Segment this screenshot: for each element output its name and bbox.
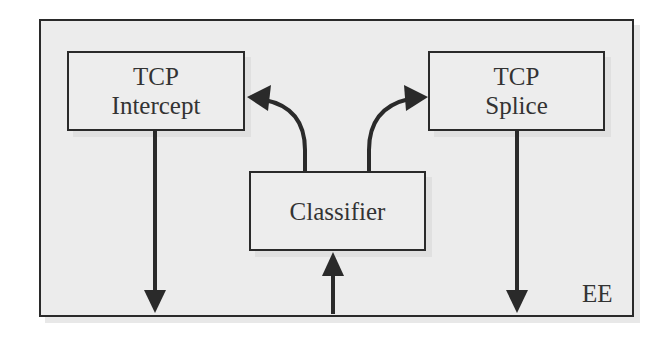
tcp-splice-label-line1: TCP [494, 62, 540, 91]
tcp-splice-label-line2: Splice [485, 91, 548, 120]
ee-container-label: EE [582, 280, 613, 308]
diagram-canvas: TCP Intercept TCP Splice Classifier EE [0, 0, 669, 343]
tcp-intercept-label-line1: TCP [133, 62, 179, 91]
classifier-label: Classifier [290, 197, 386, 226]
tcp-intercept-label-line2: Intercept [112, 91, 201, 120]
tcp-splice-box: TCP Splice [428, 51, 605, 131]
tcp-intercept-box: TCP Intercept [67, 51, 245, 131]
classifier-box: Classifier [249, 171, 426, 251]
